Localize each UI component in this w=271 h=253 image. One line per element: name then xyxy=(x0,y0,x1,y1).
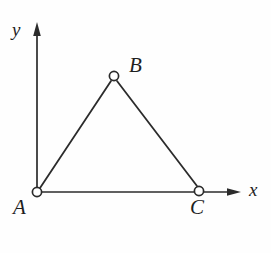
geometry-figure: y x A B C xyxy=(0,0,271,253)
triangle-side-bc xyxy=(117,81,197,186)
y-axis-label: y xyxy=(12,20,20,39)
x-axis-label: x xyxy=(249,180,257,199)
vertex-marker-b xyxy=(109,71,118,80)
x-axis-arrow-icon xyxy=(227,188,241,196)
figure-canvas xyxy=(0,0,271,253)
triangle-side-ab xyxy=(40,81,111,188)
vertex-label-c: C xyxy=(190,197,204,218)
vertex-label-a: A xyxy=(13,197,26,218)
y-axis-arrow-icon xyxy=(33,22,41,36)
vertex-marker-a xyxy=(32,187,41,196)
vertex-label-b: B xyxy=(129,55,142,76)
